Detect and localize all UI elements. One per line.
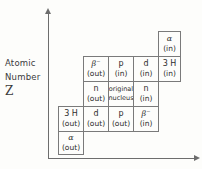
cell-original-nucleus: originalnucleus [108, 81, 134, 107]
cell-direction-label: (in) [115, 69, 128, 79]
cell-particle-label: d [93, 109, 98, 119]
x-axis-line [48, 158, 198, 159]
cell-tritium-in: 3 H(in) [158, 56, 181, 82]
cell-direction-label: (out) [62, 119, 80, 129]
cell-particle-label: α [68, 133, 73, 143]
cell-beta-minus-out: β⁻(out) [83, 56, 109, 82]
cell-direction-label: (out) [87, 69, 105, 79]
cell-direction-label: (in) [140, 119, 153, 129]
cell-direction-label: (out) [112, 119, 130, 129]
cell-direction-label: (in) [140, 69, 153, 79]
cell-d-out: d(out) [83, 106, 109, 132]
y-axis-label: Atomic Number Z [5, 56, 49, 99]
cell-beta-minus-in: β⁻(in) [133, 106, 159, 132]
cell-direction-label: (out) [87, 94, 105, 104]
cell-particle-label: n [143, 84, 148, 94]
cell-particle-label: α [167, 34, 172, 44]
cell-direction-label: (in) [163, 69, 176, 79]
cell-particle-label: β⁻ [92, 59, 101, 69]
y-axis-label-line1: Atomic [5, 58, 36, 68]
cell-direction-label: (in) [163, 44, 176, 54]
cell-direction-label: (out) [87, 119, 105, 129]
cell-particle-label: β⁻ [142, 109, 151, 119]
cell-particle-label: 3 H [64, 109, 78, 119]
cell-p-out: p(out) [108, 106, 134, 132]
cell-particle-label: p [118, 59, 123, 69]
cell-particle-label: original [109, 85, 133, 94]
x-axis-arrow-icon [194, 155, 200, 161]
diagram-canvas: Atomic Number Z α(in)β⁻(out)p(in)d(in)3 … [0, 0, 202, 169]
y-axis-arrow-icon [45, 8, 51, 14]
cell-n-out: n(out) [83, 81, 109, 107]
cell-d-in: d(in) [133, 56, 159, 82]
cell-particle-label: d [143, 59, 148, 69]
cell-direction-label: (in) [140, 94, 153, 104]
cell-alpha-out: α(out) [58, 131, 84, 155]
cell-n-in: n(in) [133, 81, 159, 107]
cell-direction-label: nucleus [108, 94, 133, 103]
cell-particle-label: p [118, 109, 123, 119]
y-axis-label-line2: Number [5, 72, 40, 82]
cell-tritium-out: 3 H(out) [58, 106, 84, 132]
cell-particle-label: 3 H [163, 59, 177, 69]
cell-alpha-in: α(in) [158, 31, 181, 57]
y-axis-label-symbol: Z [5, 84, 14, 98]
cell-particle-label: n [93, 84, 98, 94]
cell-p-in: p(in) [108, 56, 134, 82]
cell-direction-label: (out) [62, 143, 80, 153]
